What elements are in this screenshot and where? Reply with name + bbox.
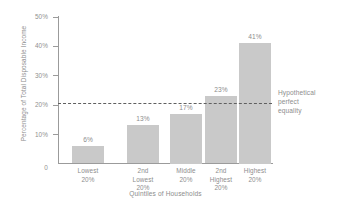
x-category-label-highest: Highest 20% bbox=[229, 167, 281, 184]
hypothetical-equality-line bbox=[58, 103, 272, 104]
y-tick-label-0: 0 bbox=[20, 164, 48, 171]
y-axis-line bbox=[58, 16, 59, 164]
bar-value-label: 13% bbox=[127, 115, 159, 122]
bar-value-label: 6% bbox=[72, 136, 104, 143]
bar-2nd-highest-20 bbox=[205, 96, 237, 164]
bar-2nd-lowest-20 bbox=[127, 125, 159, 163]
annotation-line-2: perfect bbox=[278, 97, 342, 106]
y-tick-mark-20 bbox=[53, 105, 58, 106]
y-tick-label-20: 20% bbox=[14, 101, 48, 108]
bar-middle-20 bbox=[170, 114, 202, 164]
x-axis-label: Quintiles of Households bbox=[58, 190, 273, 197]
cat-line-2: 20% bbox=[62, 176, 114, 185]
bar-value-label: 41% bbox=[239, 33, 271, 40]
y-tick-label-10: 10% bbox=[14, 131, 48, 138]
bar-value-label: 23% bbox=[205, 86, 237, 93]
annotation-line-3: equality bbox=[278, 106, 342, 115]
cat-line-1: Highest bbox=[229, 167, 281, 176]
annotation-line-1: Hypothetical bbox=[278, 88, 342, 97]
y-tick-mark-50 bbox=[53, 17, 58, 18]
hypothetical-equality-annotation: Hypothetical perfect equality bbox=[278, 88, 342, 116]
y-axis-label: Percentage of Total Disposable Income bbox=[20, 4, 27, 164]
bar-value-label: 17% bbox=[170, 104, 202, 111]
bar-chart-figure: Percentage of Total Disposable Income 50… bbox=[0, 0, 345, 209]
y-tick-mark-30 bbox=[53, 75, 58, 76]
bar-lowest-20 bbox=[72, 146, 104, 164]
y-tick-label-40: 40% bbox=[14, 42, 48, 49]
y-tick-mark-10 bbox=[53, 134, 58, 135]
x-category-label-lowest: Lowest 20% bbox=[62, 167, 114, 184]
cat-line-1: Lowest bbox=[62, 167, 114, 176]
y-tick-mark-40 bbox=[53, 46, 58, 47]
y-tick-label-30: 30% bbox=[14, 72, 48, 79]
y-tick-label-50: 50% bbox=[14, 13, 48, 20]
cat-line-2: 20% bbox=[229, 176, 281, 185]
